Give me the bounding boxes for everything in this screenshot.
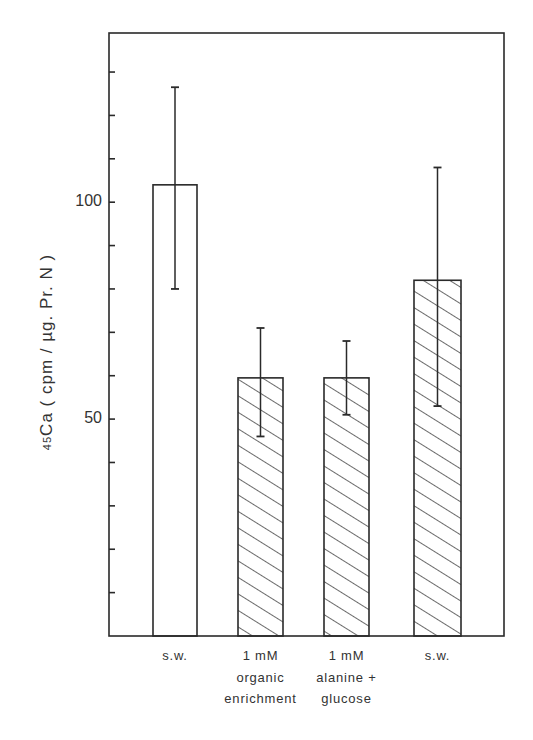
- x-category-label-line: glucose: [282, 688, 412, 710]
- plot-area: [109, 33, 504, 636]
- y-axis-label: 45Ca ( cpm / µg. Pr. N ): [37, 254, 57, 450]
- y-axis-label-superscript: 45: [41, 436, 53, 450]
- x-category-label-line: alanine +: [282, 667, 412, 689]
- x-category-label-line: s.w.: [373, 645, 503, 667]
- y-tick-label: 50: [62, 409, 102, 427]
- x-category-label: s.w.: [373, 645, 503, 667]
- bar-chart: [0, 0, 533, 740]
- y-axis-label-text: Ca ( cpm / µg. Pr. N ): [37, 254, 56, 436]
- bar: [324, 378, 369, 636]
- y-tick-label: 100: [62, 192, 102, 210]
